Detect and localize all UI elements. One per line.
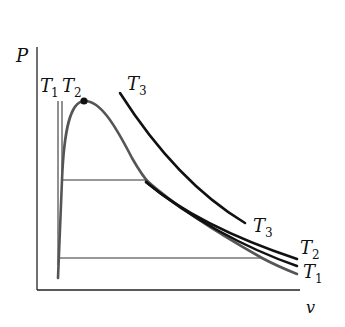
label-t1-top: T 1 bbox=[40, 75, 59, 100]
svg-text:2: 2 bbox=[74, 86, 82, 100]
y-axis-label: P bbox=[15, 45, 29, 66]
svg-text:3: 3 bbox=[265, 226, 273, 240]
saturation-dome bbox=[58, 101, 150, 278]
label-t2-top: T 2 bbox=[62, 75, 82, 100]
label-t2-right: T 2 bbox=[300, 237, 320, 262]
pv-diagram: P v T 1 T 2 T 3 T 3 T 2 T 1 bbox=[0, 0, 345, 327]
label-t3-right: T 3 bbox=[253, 215, 273, 240]
svg-text:1: 1 bbox=[315, 272, 323, 286]
isotherm-t2-lower bbox=[146, 182, 297, 266]
label-t1-right: T 1 bbox=[303, 261, 323, 286]
svg-text:3: 3 bbox=[139, 84, 147, 98]
isotherm-t3 bbox=[120, 93, 245, 223]
svg-text:2: 2 bbox=[312, 248, 320, 262]
label-t3-top: T 3 bbox=[127, 73, 147, 98]
x-axis-label: v bbox=[306, 298, 315, 317]
isotherm-t2 bbox=[146, 182, 297, 259]
isotherm-t1 bbox=[146, 180, 297, 274]
svg-text:1: 1 bbox=[51, 86, 59, 100]
